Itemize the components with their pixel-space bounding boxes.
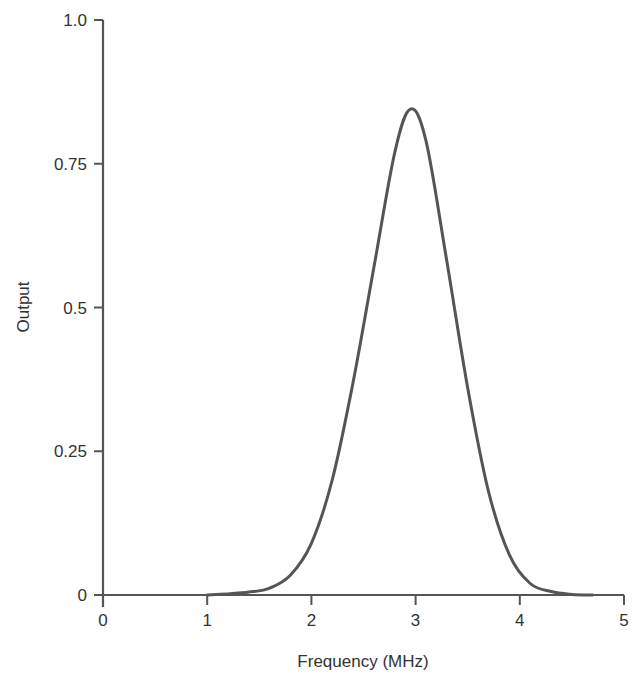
x-tick-label: 5 bbox=[619, 611, 628, 630]
y-tick-label: 0.5 bbox=[63, 299, 87, 318]
y-axis-label: Output bbox=[14, 281, 33, 332]
y-tick-label: 0.75 bbox=[54, 155, 87, 174]
x-axis: 012345 bbox=[94, 595, 629, 630]
y-axis: 00.250.50.751.0 bbox=[54, 11, 103, 607]
y-tick-label: 0 bbox=[78, 586, 87, 605]
x-tick-label: 1 bbox=[202, 611, 211, 630]
output-curve bbox=[207, 109, 593, 595]
y-tick-label: 1.0 bbox=[63, 11, 87, 30]
x-axis-label: Frequency (MHz) bbox=[297, 652, 428, 671]
x-tick-label: 3 bbox=[411, 611, 420, 630]
y-tick-label: 0.25 bbox=[54, 442, 87, 461]
frequency-response-chart: 00.250.50.751.0 012345 Frequency (MHz) O… bbox=[0, 0, 636, 683]
x-tick-label: 4 bbox=[515, 611, 524, 630]
x-tick-label: 0 bbox=[98, 611, 107, 630]
x-tick-label: 2 bbox=[307, 611, 316, 630]
